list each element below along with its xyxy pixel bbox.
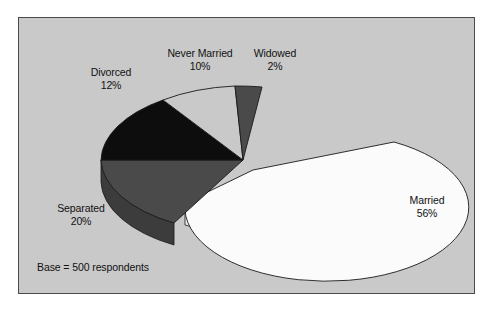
slice-label-separated: Separated 20% bbox=[44, 202, 118, 228]
slice-label-married: Married 56% bbox=[396, 194, 458, 220]
slice-label-married-pct: 56% bbox=[396, 207, 458, 220]
slice-label-divorced-pct: 12% bbox=[78, 79, 144, 92]
pie-chart-screenshot: Never Married 10% Widowed 2% Divorced 12… bbox=[0, 0, 487, 311]
slice-label-widowed-name: Widowed bbox=[254, 47, 297, 59]
slice-label-never-married-pct: 10% bbox=[158, 60, 242, 73]
slice-label-widowed: Widowed 2% bbox=[244, 47, 306, 73]
slice-label-widowed-pct: 2% bbox=[244, 60, 306, 73]
slice-label-separated-pct: 20% bbox=[44, 215, 118, 228]
base-note: Base = 500 respondents bbox=[37, 261, 149, 273]
slice-label-never-married: Never Married 10% bbox=[158, 47, 242, 73]
slice-label-divorced-name: Divorced bbox=[91, 66, 132, 78]
slice-label-divorced: Divorced 12% bbox=[78, 66, 144, 92]
slice-label-married-name: Married bbox=[410, 194, 445, 206]
slice-label-never-married-name: Never Married bbox=[167, 47, 232, 59]
slice-label-separated-name: Separated bbox=[57, 202, 105, 214]
